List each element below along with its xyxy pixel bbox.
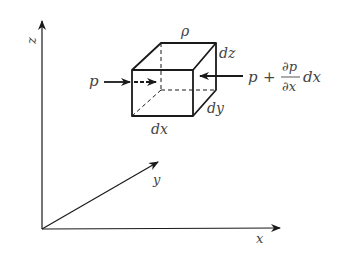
- right-p: p: [248, 68, 258, 86]
- z-axis-label: z: [24, 37, 39, 45]
- y-axis-label: y: [152, 172, 161, 187]
- partial-denominator: ∂x: [282, 79, 297, 94]
- right-pressure-expression: p + ∂p ∂x dx: [248, 59, 322, 94]
- x-axis-label: x: [256, 231, 264, 246]
- y-axis: [42, 162, 158, 229]
- dy-label: dy: [207, 100, 225, 116]
- force-arrows: [104, 76, 243, 82]
- partial-numerator: ∂p: [282, 59, 298, 74]
- dx-label: dx: [151, 121, 168, 137]
- right-plus: +: [263, 68, 276, 86]
- fluid-element-cube: [132, 43, 216, 116]
- right-dx: dx: [303, 68, 322, 86]
- fluid-element-diagram: z x y ρ dz dy dx p p + ∂p ∂x dx: [0, 0, 341, 255]
- x-axis: [42, 228, 280, 229]
- left-pressure-label: p: [89, 72, 99, 90]
- dz-label: dz: [219, 45, 236, 61]
- density-label: ρ: [180, 23, 190, 39]
